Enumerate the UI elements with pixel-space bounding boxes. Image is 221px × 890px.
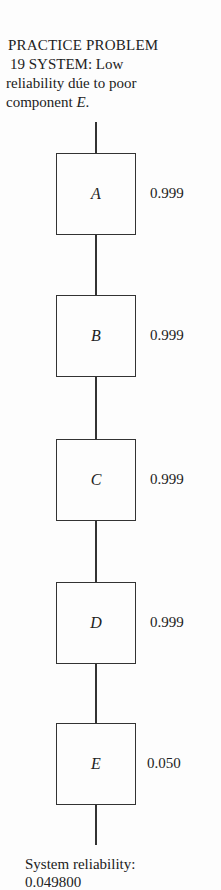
connector-b-c [95,377,97,439]
component-label: E [57,755,135,773]
system-reliability-value: 0.049800 [25,873,135,890]
title-line-4-text: component [6,94,76,110]
connector-d-e [95,663,97,724]
diagram-title: PRACTICE PROBLEM 19 SYSTEM: Low reliabil… [6,36,221,112]
component-box-d: D [56,582,136,664]
component-reliability-e: 0.050 [147,755,181,772]
system-reliability: System reliability: 0.049800 [25,855,135,890]
title-period: . [86,94,90,110]
component-label: C [57,471,135,489]
title-line-1: PRACTICE PROBLEM [6,36,221,55]
component-label: B [57,327,135,345]
title-line-2: 19 SYSTEM: Low [6,55,221,74]
component-box-c: C [56,439,136,521]
connector-a-b [95,235,97,295]
component-box-a: A [56,153,136,235]
title-line-4: component E. [6,93,221,112]
component-box-e: E [56,723,136,805]
connector-in [95,122,97,153]
component-reliability-c: 0.999 [150,471,184,488]
title-line-3: reliability dúe to poor [6,74,221,93]
title-variable-e: E [76,94,85,110]
component-label: A [57,185,135,203]
connector-c-d [95,521,97,582]
component-reliability-b: 0.999 [150,327,184,344]
component-reliability-d: 0.999 [150,614,184,631]
connector-out [95,805,97,845]
system-reliability-label: System reliability: [25,855,135,873]
component-box-b: B [56,295,136,377]
component-label: D [57,614,135,632]
component-reliability-a: 0.999 [150,185,184,202]
